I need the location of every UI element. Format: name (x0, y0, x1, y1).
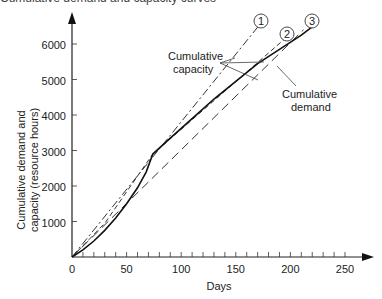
marker-2-label: 2 (284, 28, 290, 40)
capacity-annotation: Cumulative capacity (168, 50, 264, 80)
x-tick-label: 100 (172, 263, 190, 275)
y-tick-label: 4000 (42, 110, 66, 122)
marker-1: 1 (254, 14, 268, 28)
x-tick-label: 50 (120, 263, 132, 275)
y-axis-arrow-icon (68, 12, 76, 24)
marker-3-label: 3 (309, 15, 315, 27)
x-axis-title: Days (206, 280, 232, 292)
y-tick-labels: 1000 2000 3000 4000 5000 6000 (42, 39, 66, 229)
y-tick-label: 1000 (42, 217, 66, 229)
leader-line (220, 63, 258, 80)
marker-1-label: 1 (258, 15, 264, 27)
y-axis-ticks (72, 44, 77, 222)
y-tick-label: 5000 (42, 75, 66, 87)
demand-annotation: Cumulative demand (277, 66, 337, 113)
x-tick-labels: 0 50 100 150 200 250 (69, 263, 354, 275)
x-tick-label: 200 (281, 263, 299, 275)
x-axis-ticks (83, 252, 345, 257)
y-axis-title: Cumulative demand and capacity (resource… (15, 108, 40, 232)
x-axis (72, 253, 374, 261)
x-axis-arrow-icon (362, 253, 374, 261)
demand-annotation-line2: demand (291, 101, 331, 113)
demand-annotation-line1: Cumulative (282, 88, 337, 100)
marker-3: 3 (305, 14, 319, 28)
x-tick-label: 0 (69, 263, 75, 275)
y-tick-label: 3000 (42, 146, 66, 158)
y-tick-label: 6000 (42, 39, 66, 51)
y-axis-title-line1: Cumulative demand and (15, 110, 27, 229)
capacity-annotation-line1: Cumulative (168, 50, 223, 62)
x-tick-label: 150 (227, 263, 245, 275)
y-tick-label: 2000 (42, 181, 66, 193)
y-axis (68, 12, 76, 257)
chart-canvas: 0 50 100 150 200 250 1000 2000 3000 4000… (0, 0, 382, 299)
marker-2: 2 (280, 27, 294, 41)
y-axis-title-line2: capacity (resource hours) (28, 108, 40, 232)
capacity-annotation-line2: capacity (173, 63, 214, 75)
leader-line (277, 66, 296, 86)
x-tick-label: 250 (336, 263, 354, 275)
